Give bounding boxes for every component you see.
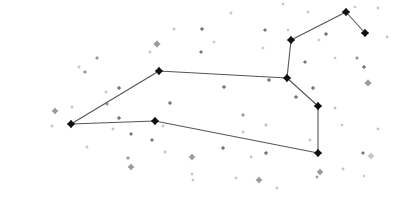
- sky-background: [0, 0, 393, 203]
- star-chart: [0, 0, 393, 203]
- star-core: [344, 10, 347, 13]
- constellation-diagram: [0, 0, 393, 203]
- star-core: [316, 151, 319, 154]
- star-core: [285, 76, 288, 79]
- star-core: [289, 38, 292, 41]
- star-core: [363, 31, 366, 34]
- star-core: [69, 122, 72, 125]
- star-core: [316, 104, 319, 107]
- star-core: [157, 69, 160, 72]
- star-core: [153, 119, 156, 122]
